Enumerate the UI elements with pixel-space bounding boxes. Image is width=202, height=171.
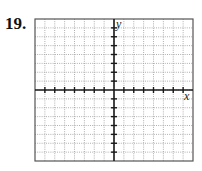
- coordinate-plane: x y: [0, 0, 202, 171]
- axes: [35, 19, 193, 161]
- y-axis-label: y: [115, 17, 122, 31]
- x-axis-label: x: [183, 89, 190, 103]
- coordinate-grid: x y: [0, 0, 202, 171]
